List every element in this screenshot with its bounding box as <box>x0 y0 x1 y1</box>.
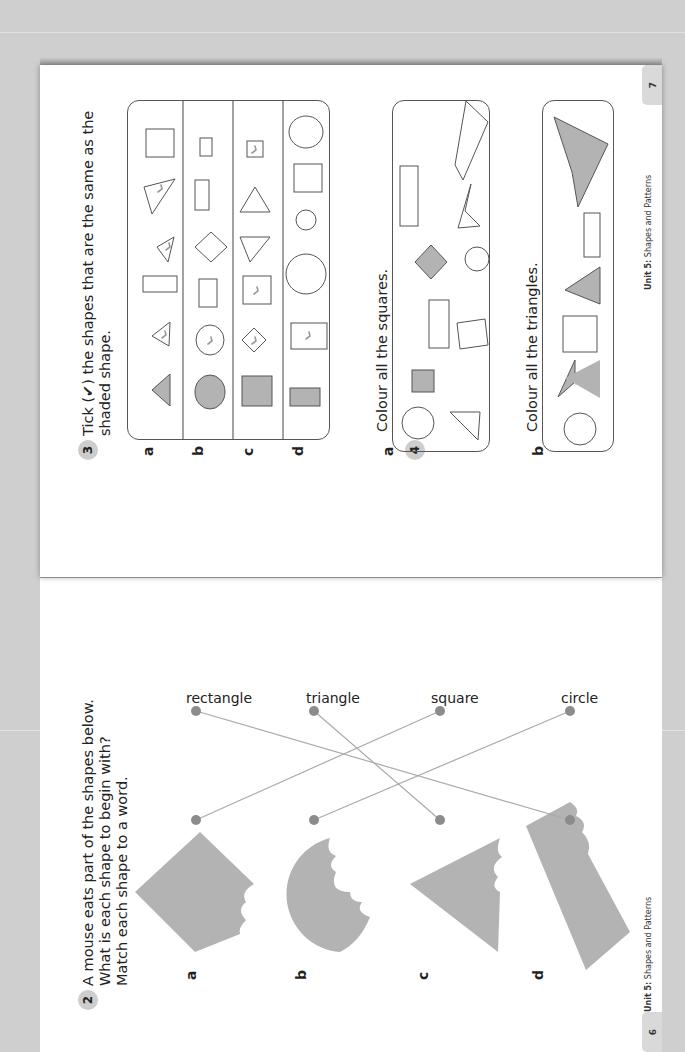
rectangle <box>584 213 600 257</box>
circle <box>564 413 596 445</box>
shaded-triangle-3 <box>554 117 608 207</box>
ex4b-shapes <box>40 0 662 1052</box>
shaded-triangle-2 <box>565 267 600 304</box>
workbook-spread: 6 7 Unit 5: Shapes and Patterns Unit 5: … <box>40 0 662 1052</box>
square <box>563 316 597 352</box>
